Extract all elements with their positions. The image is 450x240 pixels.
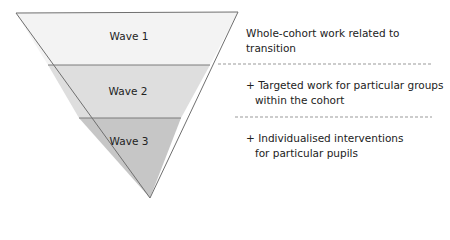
wave-3-label: Wave 3: [69, 135, 189, 147]
wave-1-description-line-1: Whole-cohort work related to transition: [246, 27, 399, 54]
wave-3-description-line-1: + Individualised interventions: [246, 131, 404, 146]
wave-2-description-line-1: + Targeted work for particular groups: [246, 78, 443, 93]
wave-2-description-line-2: within the cohort: [246, 93, 443, 108]
wave-3-description: + Individualised interventions for parti…: [246, 131, 404, 161]
wave-2-description: + Targeted work for particular groups wi…: [246, 78, 443, 108]
wave-3-band: [79, 118, 181, 198]
wave-3-description-line-2: for particular pupils: [246, 146, 404, 161]
wave-2-label: Wave 2: [68, 85, 188, 97]
wave-1-label: Wave 1: [69, 30, 189, 42]
wave-1-description: Whole-cohort work related to transition: [246, 26, 450, 56]
